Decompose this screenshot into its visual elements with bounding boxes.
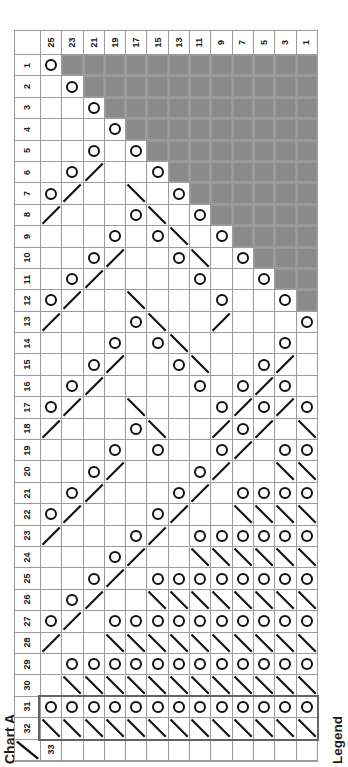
yarn-over-icon: [45, 615, 57, 627]
no-stitch-cell-r2-c11: [254, 76, 274, 96]
stitch-cell-r30-c11: [254, 675, 274, 695]
yarn-over-icon: [45, 59, 57, 71]
yarn-over-icon: [173, 701, 185, 713]
row-header-label-3: 3: [23, 105, 32, 110]
decrease-backslash-icon: [275, 718, 295, 738]
row-header-18: 18: [15, 419, 40, 439]
stitch-cell-r24-c7: [169, 547, 189, 567]
no-stitch-cell-r4-c7: [169, 119, 189, 139]
row-header-22: 22: [15, 504, 40, 524]
row-header-4: 4: [15, 119, 40, 139]
no-stitch-cell-r9-c13: [297, 226, 317, 246]
yarn-over-icon: [152, 573, 164, 585]
stitch-cell-r29-c2: [62, 654, 82, 674]
stitch-cell-r15-c11: [254, 354, 274, 374]
stitch-cell-r29-c4: [105, 654, 125, 674]
stitch-cell-r23-c1: [41, 526, 61, 546]
stitch-cell-r10-c10: [233, 248, 253, 268]
stitch-cell-r21-c7: [169, 483, 189, 503]
row-header-label-8: 8: [23, 212, 32, 217]
stitch-cell-r18-c5: [126, 419, 146, 439]
stitch-cell-r13-c10: [233, 312, 253, 332]
decrease-backslash-icon: [15, 740, 40, 760]
stitch-cell-r21-c10: [233, 483, 253, 503]
stitch-cell-r12-c5: [126, 290, 146, 310]
stitch-cell-r1-c1: [41, 55, 61, 75]
decrease-backslash-icon: [62, 718, 82, 738]
decrease-backslash-icon: [126, 633, 146, 653]
stitch-cell-r31-c11: [254, 697, 274, 717]
row-header-label-26: 26: [23, 595, 32, 605]
no-stitch-cell-r10-c12: [275, 248, 295, 268]
col-header-13: 13: [169, 31, 189, 54]
row-header-label-25: 25: [23, 574, 32, 584]
stitch-cell-r23-c12: [275, 526, 295, 546]
stitch-cell-r28-c11: [254, 633, 274, 653]
no-stitch-cell-r5-c12: [275, 141, 295, 161]
stitch-cell-r17-c3: [84, 397, 104, 417]
yarn-over-icon: [88, 102, 100, 114]
stitch-cell-r12-c3: [84, 290, 104, 310]
stitch-cell-r4-c2: [62, 119, 82, 139]
decrease-backslash-icon: [147, 312, 167, 332]
decrease-backslash-icon: [275, 461, 295, 481]
yarn-over-icon: [173, 658, 185, 670]
decrease-backslash-icon: [297, 547, 317, 567]
decrease-backslash-icon: [126, 675, 146, 695]
row-header-label-16: 16: [23, 381, 32, 391]
no-stitch-cell-r4-c8: [190, 119, 210, 139]
stitch-cell-r17-c12: [275, 397, 295, 417]
stitch-cell-r22-c11: [254, 504, 274, 524]
stitch-cell-r30-c13: [297, 675, 317, 695]
stitch-cell-r19-c8: [190, 440, 210, 460]
stitch-cell-r15-c2: [62, 354, 82, 374]
yarn-over-icon: [279, 701, 291, 713]
row-header-label-22: 22: [23, 509, 32, 519]
stitch-cell-r25-c4: [105, 568, 125, 588]
stitch-cell-r28-c9: [211, 633, 231, 653]
stitch-cell-r20-c2: [62, 461, 82, 481]
stitch-cell-r11-c4: [105, 269, 125, 289]
no-stitch-cell-r8-c13: [297, 205, 317, 225]
stitch-cell-r12-c6: [147, 290, 167, 310]
stitch-cell-r12-c8: [190, 290, 210, 310]
stitch-cell-r27-c9: [211, 611, 231, 631]
stitch-cell-r16-c2: [62, 376, 82, 396]
stitch-cell-r3-c1: [41, 98, 61, 118]
stitch-cell-r20-c3: [84, 461, 104, 481]
col-header-23: 23: [62, 31, 82, 54]
stitch-cell-r24-c2: [62, 547, 82, 567]
no-stitch-cell-r7-c11: [254, 183, 274, 203]
stitch-cell-r14-c2: [62, 333, 82, 353]
no-stitch-cell-r12-c13: [297, 290, 317, 310]
stitch-cell-r29-c3: [84, 654, 104, 674]
decrease-backslash-icon: [169, 675, 189, 695]
stitch-cell-r16-c8: [190, 376, 210, 396]
stitch-cell-r18-c1: [41, 419, 61, 439]
no-stitch-cell-r5-c7: [169, 141, 189, 161]
decrease-slash-icon: [233, 397, 253, 417]
decrease-slash-icon: [147, 526, 167, 546]
stitch-cell-r17-c6: [147, 397, 167, 417]
decrease-slash-icon: [105, 248, 125, 268]
stitch-cell-r21-c8: [190, 483, 210, 503]
stitch-cell-r3-c2: [62, 98, 82, 118]
yarn-over-icon: [109, 551, 121, 563]
col-header-label-17: 17: [132, 37, 141, 47]
stitch-cell-r16-c5: [126, 376, 146, 396]
decrease-backslash-icon: [233, 590, 253, 610]
stitch-cell-r18-c7: [169, 419, 189, 439]
stitch-cell-r21-c2: [62, 483, 82, 503]
stitch-cell-r8-c4: [105, 205, 125, 225]
decrease-slash-icon: [41, 312, 61, 332]
yarn-over-icon: [66, 658, 78, 670]
col-header-label-1: 1: [302, 40, 311, 45]
stitch-cell-r17-c10: [233, 397, 253, 417]
stitch-cell-r6-c6: [147, 162, 167, 182]
no-stitch-cell-r10-c13: [297, 248, 317, 268]
col-header-19: 19: [105, 31, 125, 54]
yarn-over-icon: [258, 273, 270, 285]
stitch-cell-r30-c7: [169, 675, 189, 695]
stitch-cell-r14-c4: [105, 333, 125, 353]
yarn-over-icon: [152, 444, 164, 456]
